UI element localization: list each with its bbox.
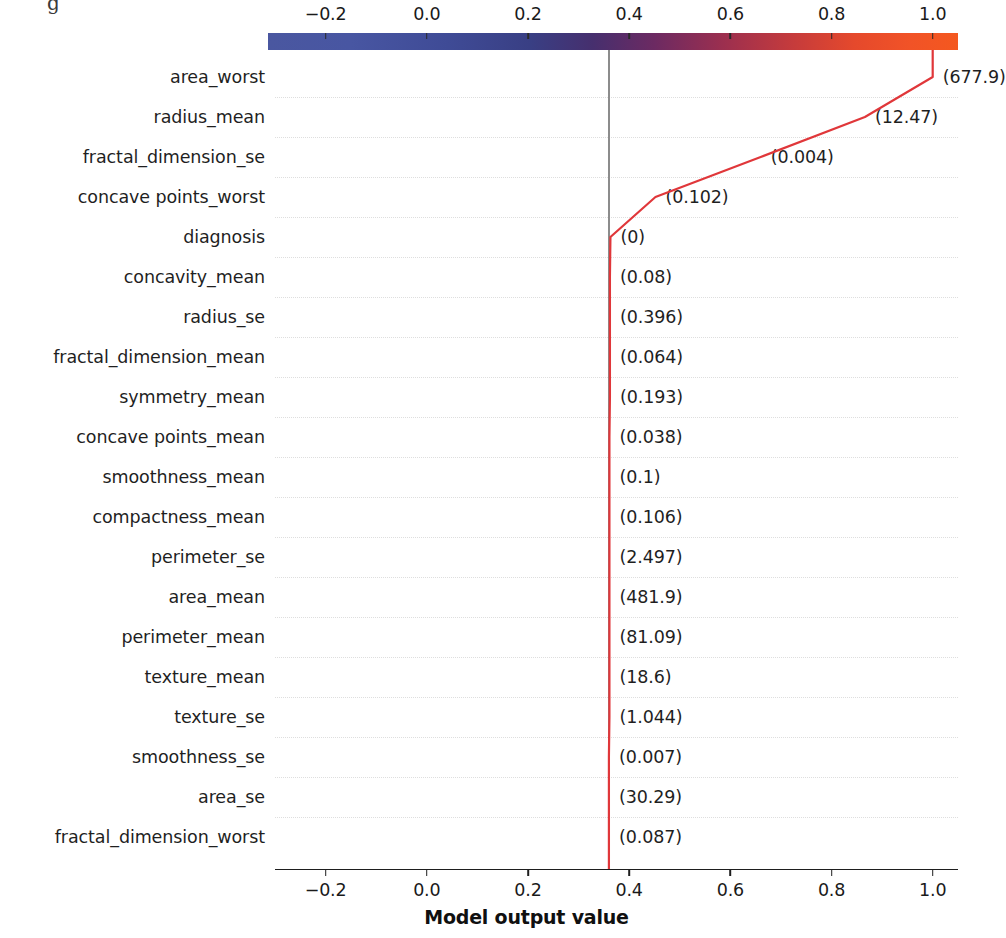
feature-value: (0) — [620, 227, 645, 247]
feature-row: perimeter_mean(81.09) — [0, 617, 975, 657]
x-axis-tick-label: 0.4 — [616, 880, 643, 900]
feature-value: (0.08) — [620, 267, 672, 287]
row-gridline — [275, 137, 958, 138]
feature-value: (0.106) — [619, 507, 682, 527]
feature-value: (0.004) — [771, 147, 834, 167]
row-gridline — [275, 737, 958, 738]
feature-label: symmetry_mean — [119, 387, 265, 407]
row-gridline — [275, 377, 958, 378]
x-axis-tick-label: 0.8 — [818, 880, 845, 900]
x-axis-line — [275, 869, 958, 870]
feature-value: (0.064) — [620, 347, 683, 367]
feature-label: smoothness_mean — [102, 467, 265, 487]
row-gridline — [275, 217, 958, 218]
feature-label: concave points_worst — [78, 187, 265, 207]
row-gridline — [275, 577, 958, 578]
feature-value: (0.038) — [619, 427, 682, 447]
feature-label: perimeter_mean — [121, 627, 265, 647]
feature-value: (677.9) — [943, 67, 1006, 87]
x-axis-tick-mark — [932, 869, 934, 876]
feature-row: smoothness_se(0.007) — [0, 737, 975, 777]
feature-value: (0.1) — [619, 467, 660, 487]
feature-row: concave points_worst(0.102) — [0, 177, 975, 217]
feature-row: diagnosis(0) — [0, 217, 975, 257]
x-axis-tick-label: 0.0 — [413, 880, 440, 900]
row-gridline — [275, 97, 958, 98]
row-gridline — [275, 457, 958, 458]
feature-label: fractal_dimension_worst — [55, 827, 265, 847]
row-gridline — [275, 657, 958, 658]
feature-label: texture_mean — [145, 667, 265, 687]
feature-row: area_mean(481.9) — [0, 577, 975, 617]
feature-value: (0.087) — [619, 827, 682, 847]
feature-row: symmetry_mean(0.193) — [0, 377, 975, 417]
feature-value: (1.044) — [619, 707, 682, 727]
feature-row: radius_se(0.396) — [0, 297, 975, 337]
x-axis-tick-mark — [325, 869, 327, 876]
row-gridline — [275, 617, 958, 618]
feature-row: concave points_mean(0.038) — [0, 417, 975, 457]
feature-value: (18.6) — [619, 667, 671, 687]
feature-row: radius_mean(12.47) — [0, 97, 975, 137]
feature-label: concavity_mean — [124, 267, 265, 287]
x-axis-tick-mark — [730, 869, 732, 876]
feature-value: (0.396) — [620, 307, 683, 327]
x-axis-title: Model output value — [0, 906, 975, 928]
feature-value: (0.007) — [619, 747, 682, 767]
feature-row: texture_se(1.044) — [0, 697, 975, 737]
feature-label: radius_se — [183, 307, 265, 327]
feature-label: fractal_dimension_mean — [53, 347, 265, 367]
row-gridline — [275, 537, 958, 538]
row-gridline — [275, 337, 958, 338]
x-axis-tick-label: −0.2 — [305, 880, 347, 900]
feature-value: (30.29) — [619, 787, 682, 807]
row-gridline — [275, 697, 958, 698]
feature-row: compactness_mean(0.106) — [0, 497, 975, 537]
feature-value: (12.47) — [875, 107, 938, 127]
feature-value: (2.497) — [619, 547, 682, 567]
feature-value: (481.9) — [619, 587, 682, 607]
feature-row: concavity_mean(0.08) — [0, 257, 975, 297]
feature-label: diagnosis — [183, 227, 265, 247]
feature-label: area_worst — [170, 67, 265, 87]
x-axis-tick-mark — [426, 869, 428, 876]
row-gridline — [275, 817, 958, 818]
feature-row: area_se(30.29) — [0, 777, 975, 817]
feature-label: fractal_dimension_se — [83, 147, 265, 167]
row-gridline — [275, 417, 958, 418]
x-axis-tick-label: 0.2 — [514, 880, 541, 900]
feature-label: concave points_mean — [76, 427, 265, 447]
feature-row: perimeter_se(2.497) — [0, 537, 975, 577]
feature-row: fractal_dimension_se(0.004) — [0, 137, 975, 177]
feature-label: perimeter_se — [151, 547, 265, 567]
x-axis-tick-mark — [831, 869, 833, 876]
feature-label: area_se — [198, 787, 265, 807]
row-gridline — [275, 257, 958, 258]
row-gridline — [275, 177, 958, 178]
feature-value: (81.09) — [619, 627, 682, 647]
feature-value: (0.102) — [665, 187, 728, 207]
feature-row: fractal_dimension_worst(0.087) — [0, 817, 975, 857]
feature-label: texture_se — [174, 707, 265, 727]
row-gridline — [275, 777, 958, 778]
x-axis-tick-label: 0.6 — [717, 880, 744, 900]
feature-row: area_worst(677.9) — [0, 57, 975, 97]
feature-label: radius_mean — [154, 107, 265, 127]
row-gridline — [275, 297, 958, 298]
row-gridline — [275, 497, 958, 498]
feature-label: compactness_mean — [92, 507, 265, 527]
x-axis-tick-mark — [527, 869, 529, 876]
base-value-reference-line — [608, 50, 610, 869]
feature-row: texture_mean(18.6) — [0, 657, 975, 697]
feature-label: area_mean — [168, 587, 265, 607]
x-axis-tick-mark — [628, 869, 630, 876]
feature-label: smoothness_se — [132, 747, 265, 767]
feature-row: smoothness_mean(0.1) — [0, 457, 975, 497]
feature-value: (0.193) — [620, 387, 683, 407]
x-axis-tick-label: 1.0 — [919, 880, 946, 900]
x-axis-title-text: Model output value — [346, 906, 629, 928]
feature-row: fractal_dimension_mean(0.064) — [0, 337, 975, 377]
